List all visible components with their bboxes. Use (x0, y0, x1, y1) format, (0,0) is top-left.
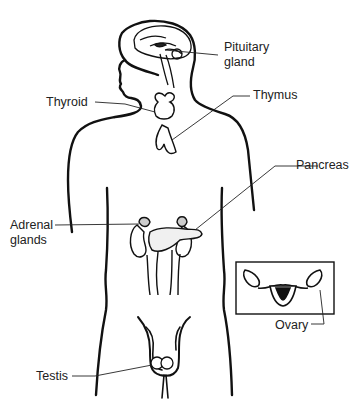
label-adrenal: Adrenal (10, 218, 53, 233)
face-profile (68, 60, 141, 232)
right-arm-inner (222, 188, 232, 395)
testis-leader (72, 365, 152, 376)
endocrine-diagram: Pituitary gland Thyroid Thymus Pancreas … (0, 0, 353, 401)
label-thyroid: Thyroid (46, 95, 88, 110)
pancreas-leader (195, 166, 318, 230)
left-kidney (130, 225, 146, 257)
label-pituitary: Pituitary (224, 40, 269, 55)
thymus-leader (172, 96, 250, 140)
pancreas (149, 228, 202, 251)
pituitary-leader (165, 50, 218, 55)
label-pituitary-gland: gland (224, 55, 255, 70)
left-adrenal (139, 218, 150, 227)
label-testis: Testis (36, 369, 68, 384)
right-adrenal (177, 217, 187, 227)
label-ovary: Ovary (275, 318, 308, 333)
label-adrenal-glands: glands (10, 233, 47, 248)
thyroid-leader (95, 102, 155, 112)
label-thymus: Thymus (253, 88, 297, 103)
thyroid-gland (155, 93, 175, 119)
label-pancreas: Pancreas (296, 158, 349, 173)
right-testis (161, 357, 173, 369)
adrenal-leader (55, 224, 139, 225)
left-arm-inner (96, 188, 108, 395)
body-outline-drawing (0, 0, 353, 401)
